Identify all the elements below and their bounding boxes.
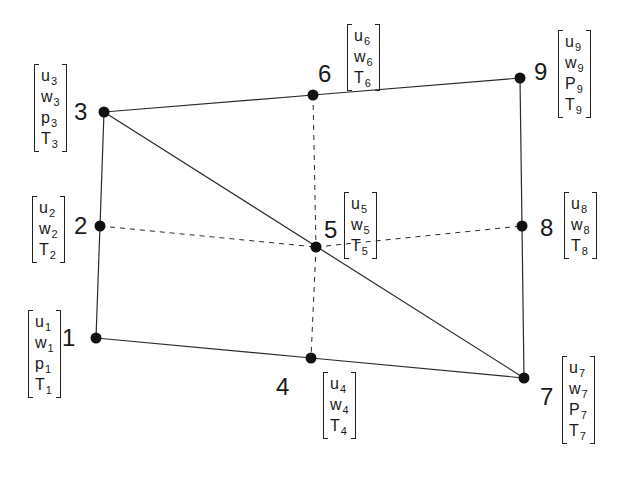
- dof-entry: u2: [39, 198, 58, 219]
- node-4-dot: [306, 353, 317, 364]
- dof-entry: P9: [565, 74, 584, 95]
- dof-entry: p3: [41, 108, 60, 129]
- dof-entry: T6: [354, 68, 373, 89]
- edge-4-1: [96, 338, 311, 358]
- dof-entry: w8: [571, 215, 590, 236]
- node-4-dof-vector: u4 w4 T4: [323, 372, 356, 439]
- node-7-dot: [519, 373, 530, 384]
- edge-3-6: [104, 95, 313, 112]
- dof-entry: w3: [41, 87, 60, 108]
- dof-entry: u1: [35, 312, 54, 333]
- dof-entry: T9: [565, 95, 584, 116]
- dof-entry: w5: [351, 215, 370, 236]
- dof-entry: T3: [41, 129, 60, 150]
- node-1-dof-vector: u1 w1 p1 T1: [28, 310, 61, 398]
- dof-entry: T4: [330, 416, 349, 437]
- dof-entry: u7: [569, 358, 588, 379]
- dof-entry: w4: [330, 395, 349, 416]
- node-8-dot: [517, 221, 528, 232]
- node-9-dof-vector: u9 w9 P9 T9: [558, 30, 591, 118]
- edge-2-3: [100, 112, 104, 226]
- dof-entry: P7: [569, 400, 588, 421]
- dof-entry: u6: [354, 26, 373, 47]
- dof-entry: p1: [35, 354, 54, 375]
- dof-entry: u8: [571, 194, 590, 215]
- dof-entry: T8: [571, 236, 590, 257]
- dof-entry: w2: [39, 219, 58, 240]
- edge-6-9: [313, 78, 520, 95]
- dof-entry: w1: [35, 333, 54, 354]
- dof-entry: w7: [569, 379, 588, 400]
- edge-8-7: [522, 226, 524, 378]
- node-5-dof-vector: u5 w5 T5: [344, 192, 377, 259]
- dof-entry: u5: [351, 194, 370, 215]
- node-9-dot: [515, 73, 526, 84]
- node-6-label: 6: [318, 62, 331, 86]
- element-diagram: [0, 0, 626, 477]
- edge-1-2: [96, 226, 100, 338]
- node-9-label: 9: [534, 60, 547, 84]
- node-3-dof-vector: u3 w3 p3 T3: [34, 64, 67, 152]
- edge-9-8: [520, 78, 522, 226]
- node-3-dot: [99, 107, 110, 118]
- dof-entry: u9: [565, 32, 584, 53]
- node-1-label: 1: [62, 326, 75, 350]
- node-7-label: 7: [540, 385, 553, 409]
- node-2-dot: [95, 221, 106, 232]
- dof-entry: u4: [330, 374, 349, 395]
- node-2-label: 2: [74, 214, 87, 238]
- node-2-dof-vector: u2 w2 T2: [32, 196, 65, 263]
- node-8-dof-vector: u8 w8 T8: [564, 192, 597, 259]
- dashed-2-5: [100, 226, 316, 247]
- dof-entry: T2: [39, 240, 58, 261]
- dof-entry: u3: [41, 66, 60, 87]
- node-8-label: 8: [540, 216, 553, 240]
- dashed-6-5: [313, 95, 316, 247]
- node-5-label: 5: [324, 218, 337, 242]
- dof-entry: T1: [35, 375, 54, 396]
- node-7-dof-vector: u7 w7 P7 T7: [562, 356, 595, 444]
- dof-entry: w9: [565, 53, 584, 74]
- node-4-label: 4: [276, 375, 289, 399]
- node-3-label: 3: [74, 100, 87, 124]
- dof-entry: T5: [351, 236, 370, 257]
- node-6-dot: [308, 90, 319, 101]
- dof-entry: w6: [354, 47, 373, 68]
- node-6-dof-vector: u6 w6 T6: [347, 24, 380, 91]
- dashed-5-4: [311, 247, 316, 358]
- dof-entry: T7: [569, 421, 588, 442]
- node-1-dot: [91, 333, 102, 344]
- node-5-dot: [311, 242, 322, 253]
